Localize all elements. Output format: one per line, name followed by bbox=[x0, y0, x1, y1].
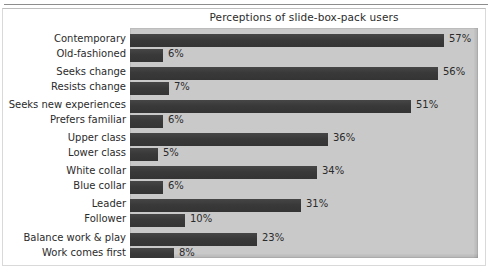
bar-value-label: 6% bbox=[168, 180, 184, 191]
bar bbox=[130, 181, 163, 194]
category-label: Lower class bbox=[0, 147, 126, 158]
bar-value-label: 56% bbox=[443, 66, 465, 77]
bar-value-label: 10% bbox=[190, 213, 212, 224]
category-label: Seeks change bbox=[0, 66, 126, 77]
category-label: Blue collar bbox=[0, 180, 126, 191]
top-divider-rule bbox=[4, 4, 488, 5]
category-label: Old-fashioned bbox=[0, 48, 126, 59]
bar-value-label: 23% bbox=[262, 232, 284, 243]
bar-value-label: 31% bbox=[306, 198, 328, 209]
bar bbox=[130, 34, 444, 47]
bar-value-label: 8% bbox=[179, 247, 195, 258]
bar-value-label: 34% bbox=[322, 165, 344, 176]
category-label: Balance work & play bbox=[0, 232, 126, 243]
category-label: Contemporary bbox=[0, 33, 126, 44]
bar bbox=[130, 133, 328, 146]
bar bbox=[130, 115, 163, 128]
bar bbox=[130, 100, 411, 113]
bar-value-label: 6% bbox=[168, 114, 184, 125]
bar bbox=[130, 214, 185, 227]
bar bbox=[130, 233, 257, 246]
category-label: Work comes first bbox=[0, 247, 126, 258]
category-label: Resists change bbox=[0, 81, 126, 92]
bar bbox=[130, 49, 163, 62]
bar bbox=[130, 82, 169, 95]
bar-value-label: 7% bbox=[174, 81, 190, 92]
chart-figure: Perceptions of slide-box-pack users Cont… bbox=[0, 0, 490, 270]
bar-value-label: 51% bbox=[416, 99, 438, 110]
category-axis-labels: ContemporaryOld-fashionedSeeks changeRes… bbox=[0, 28, 126, 258]
bar-value-label: 57% bbox=[449, 33, 471, 44]
category-label: Follower bbox=[0, 213, 126, 224]
plot-area: 57%6%56%7%51%6%36%5%34%6%31%10%23%8% bbox=[130, 28, 478, 258]
chart-title: Perceptions of slide-box-pack users bbox=[130, 11, 478, 23]
bar bbox=[130, 148, 158, 161]
category-label: Upper class bbox=[0, 132, 126, 143]
bar-value-label: 36% bbox=[333, 132, 355, 143]
bar bbox=[130, 199, 301, 212]
category-label: Leader bbox=[0, 198, 126, 209]
bar-value-label: 5% bbox=[163, 147, 179, 158]
bar bbox=[130, 67, 438, 80]
bar-value-label: 6% bbox=[168, 48, 184, 59]
bar bbox=[130, 248, 174, 258]
category-label: Prefers familiar bbox=[0, 114, 126, 125]
category-label: White collar bbox=[0, 165, 126, 176]
panel-right-shading bbox=[474, 28, 478, 258]
category-label: Seeks new experiences bbox=[0, 99, 126, 110]
bar bbox=[130, 166, 317, 179]
